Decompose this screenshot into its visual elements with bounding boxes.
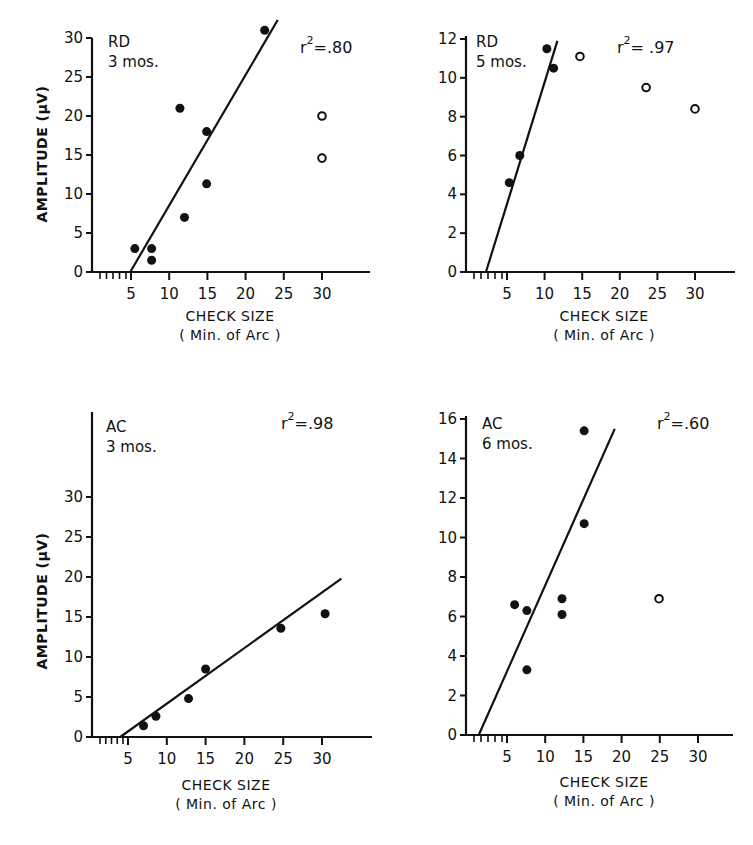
x-tick-label: 25 bbox=[650, 748, 669, 766]
data-point-filled bbox=[522, 606, 531, 615]
data-point-filled bbox=[558, 610, 567, 619]
data-point-filled bbox=[147, 244, 156, 253]
r2-value: =.98 bbox=[295, 414, 334, 433]
y-tick-label: 0 bbox=[73, 728, 83, 746]
xlabel-line1: CHECK SIZE bbox=[160, 307, 300, 326]
xlabel-line2: ( Min. of Arc ) bbox=[534, 326, 674, 345]
r2-exponent: 2 bbox=[664, 410, 671, 423]
y-tick-label: 30 bbox=[64, 488, 83, 506]
subject-label: AC bbox=[482, 414, 533, 434]
r2-value: = .97 bbox=[631, 38, 675, 57]
panel-4-subject: AC 6 mos. bbox=[482, 414, 533, 454]
panel-3-r2: r2=.98 bbox=[281, 410, 333, 433]
y-tick-label: 6 bbox=[447, 147, 457, 165]
y-tick-label: 4 bbox=[447, 185, 457, 203]
data-point-open bbox=[576, 53, 584, 61]
panel-2-subject: RD 5 mos. bbox=[476, 32, 527, 72]
xlabel-line1: CHECK SIZE bbox=[534, 307, 674, 326]
y-tick-label: 4 bbox=[447, 647, 457, 665]
data-point-filled bbox=[151, 712, 160, 721]
xlabel-line1: CHECK SIZE bbox=[156, 776, 296, 795]
x-tick-label: 10 bbox=[157, 750, 176, 768]
age-label: 3 mos. bbox=[108, 52, 159, 72]
y-tick-label: 25 bbox=[64, 528, 83, 546]
data-point-filled bbox=[276, 624, 285, 633]
r2-symbol: r bbox=[617, 38, 624, 57]
y-tick-label: 10 bbox=[438, 529, 457, 547]
y-tick-label: 25 bbox=[64, 68, 83, 86]
y-tick-label: 12 bbox=[438, 30, 457, 48]
y-tick-label: 8 bbox=[447, 568, 457, 586]
r2-exponent: 2 bbox=[288, 410, 295, 423]
y-tick-label: 0 bbox=[447, 726, 457, 744]
panel-3-xlabel: CHECK SIZE ( Min. of Arc ) bbox=[156, 776, 296, 814]
y-tick-label: 8 bbox=[447, 108, 457, 126]
x-tick-label: 15 bbox=[574, 748, 593, 766]
data-point-open bbox=[655, 595, 663, 603]
x-tick-label: 10 bbox=[536, 748, 555, 766]
data-point-open bbox=[642, 84, 650, 92]
data-point-filled bbox=[542, 44, 551, 53]
x-tick-label: 20 bbox=[235, 750, 254, 768]
panel-1-r2: r2=.80 bbox=[300, 34, 352, 57]
data-point-filled bbox=[184, 694, 193, 703]
y-tick-label: 2 bbox=[447, 687, 457, 705]
data-point-filled bbox=[515, 151, 524, 160]
data-point-filled bbox=[175, 104, 184, 113]
data-point-filled bbox=[147, 256, 156, 265]
age-label: 3 mos. bbox=[106, 437, 157, 457]
age-label: 5 mos. bbox=[476, 52, 527, 72]
y-tick-label: 15 bbox=[64, 146, 83, 164]
y-tick-label: 15 bbox=[64, 608, 83, 626]
data-point-filled bbox=[558, 594, 567, 603]
data-point-open bbox=[691, 105, 699, 113]
panel-4-r2: r2=.60 bbox=[657, 410, 709, 433]
panel-2-r2: r2= .97 bbox=[617, 34, 675, 57]
y-tick-label: 16 bbox=[438, 410, 457, 428]
r2-symbol: r bbox=[281, 414, 288, 433]
x-tick-label: 5 bbox=[502, 285, 512, 303]
data-point-filled bbox=[202, 179, 211, 188]
x-tick-label: 5 bbox=[502, 748, 512, 766]
data-point-filled bbox=[510, 600, 519, 609]
panel-1-subject: RD 3 mos. bbox=[108, 32, 159, 72]
r2-symbol: r bbox=[657, 414, 664, 433]
data-point-filled bbox=[580, 519, 589, 528]
data-point-filled bbox=[321, 609, 330, 618]
xlabel-line1: CHECK SIZE bbox=[534, 773, 674, 792]
y-tick-label: 10 bbox=[64, 648, 83, 666]
y-tick-label: 10 bbox=[438, 69, 457, 87]
x-tick-label: 5 bbox=[123, 750, 133, 768]
panel-4-xlabel: CHECK SIZE ( Min. of Arc ) bbox=[534, 773, 674, 811]
x-tick-label: 20 bbox=[236, 285, 255, 303]
data-point-filled bbox=[580, 426, 589, 435]
x-tick-label: 10 bbox=[160, 285, 179, 303]
data-point-filled bbox=[202, 127, 211, 136]
y-tick-label: 14 bbox=[438, 450, 457, 468]
xlabel-line2: ( Min. of Arc ) bbox=[160, 326, 300, 345]
panel-3-subject: AC 3 mos. bbox=[106, 417, 157, 457]
x-tick-label: 30 bbox=[312, 285, 331, 303]
x-tick-label: 20 bbox=[610, 285, 629, 303]
age-label: 6 mos. bbox=[482, 434, 533, 454]
r2-symbol: r bbox=[300, 38, 307, 57]
r2-value: =.80 bbox=[314, 38, 353, 57]
xlabel-line2: ( Min. of Arc ) bbox=[156, 795, 296, 814]
data-point-filled bbox=[505, 178, 514, 187]
y-tick-label: 10 bbox=[64, 185, 83, 203]
x-tick-label: 15 bbox=[196, 750, 215, 768]
scatter-panel-3: 05101520253051015202530 bbox=[64, 412, 372, 768]
y-tick-label: 5 bbox=[73, 224, 83, 242]
y-tick-label: 30 bbox=[64, 29, 83, 47]
subject-label: RD bbox=[476, 32, 527, 52]
panel-1-xlabel: CHECK SIZE ( Min. of Arc ) bbox=[160, 307, 300, 345]
x-tick-label: 5 bbox=[126, 285, 136, 303]
subject-label: RD bbox=[108, 32, 159, 52]
r2-value: =.60 bbox=[671, 414, 710, 433]
data-point-open bbox=[318, 154, 326, 162]
y-tick-label: 0 bbox=[447, 263, 457, 281]
x-tick-label: 30 bbox=[685, 285, 704, 303]
data-point-filled bbox=[130, 244, 139, 253]
x-tick-label: 25 bbox=[274, 285, 293, 303]
panel-2-xlabel: CHECK SIZE ( Min. of Arc ) bbox=[534, 307, 674, 345]
